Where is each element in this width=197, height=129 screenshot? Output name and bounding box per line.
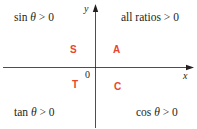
quadrant-i-statement: all ratios > 0 <box>121 12 179 24</box>
y-axis-label: y <box>84 4 88 14</box>
astc-diagram: y x 0 sin θ > 0 S all ratios > 0 A tan θ… <box>0 0 197 129</box>
quadrant-iii-statement: tan θ > 0 <box>14 107 55 119</box>
x-axis-arrow-icon <box>186 65 194 70</box>
quadrant-iii-letter: T <box>72 80 78 90</box>
quadrant-ii-letter: S <box>70 45 77 55</box>
quadrant-iv-letter: C <box>114 82 121 92</box>
quadrant-iv-statement: cos θ > 0 <box>136 107 178 119</box>
y-axis-arrow-icon <box>93 4 98 12</box>
x-axis-label: x <box>183 71 187 81</box>
quadrant-i-letter: A <box>113 45 120 55</box>
quadrant-ii-statement: sin θ > 0 <box>14 12 54 24</box>
origin-label: 0 <box>85 70 90 80</box>
